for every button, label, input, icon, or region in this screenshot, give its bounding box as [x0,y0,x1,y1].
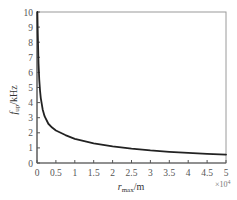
x-tick-label: 3.5 [163,168,175,178]
line-chart: 00.511.522.533.544.55 012345678910 fup/k… [0,0,237,200]
x-tick-label: 5 [224,168,229,178]
x-tick-label: 4.5 [201,168,213,178]
data-line [37,12,226,155]
x-tick-label: 0 [35,168,40,178]
y-tick-label: 0 [28,159,33,169]
y-tick-label: 1 [28,143,33,153]
x-tick-label: 1.5 [88,168,100,178]
y-tick-label: 7 [28,53,33,63]
x-multiplier-base: ×10 [215,180,228,189]
x-tick-label: 2.5 [126,168,138,178]
y-tick-label: 4 [28,98,33,108]
y-tick-label: 6 [28,68,33,78]
x-tick-label: 4 [186,168,191,178]
x-axis-multiplier: ×104 [215,179,231,189]
x-tick-label: 1 [72,168,77,178]
x-axis-title-sub: max [122,186,135,194]
y-tick-label: 8 [28,38,33,48]
x-tick-label: 2 [110,168,115,178]
x-axis-title-unit: /m [134,181,145,192]
y-tick-label: 2 [28,128,33,138]
y-tick-label: 9 [28,23,33,33]
y-tick-label: 3 [28,113,33,123]
x-tick-label: 0.5 [50,168,62,178]
y-axis-title: fup/kHz [8,85,21,115]
x-multiplier-exp: 4 [228,179,231,185]
x-axis-title: rmax/m [118,181,145,194]
plot-frame [37,12,226,163]
y-axis-title-unit: /kHz [8,85,19,105]
y-tick-label: 10 [24,8,34,18]
y-tick-label: 5 [28,83,33,93]
x-tick-label: 3 [148,168,153,178]
